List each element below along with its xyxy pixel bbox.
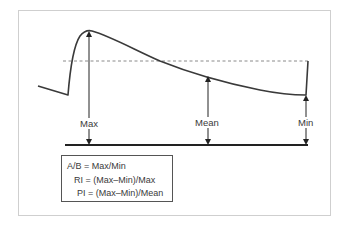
formula-box: A/B = Max/Min RI = (Max–Min)/Max PI = (M… (61, 155, 173, 202)
formula-ab-ratio: A/B = Max/Min (67, 160, 172, 174)
mean-label: Mean (194, 117, 220, 128)
formula-resistive-index: RI = (Max–Min)/Max (67, 174, 172, 188)
max-label: Max (79, 118, 99, 129)
min-label: Min (297, 117, 314, 128)
waveform-curve (38, 31, 308, 95)
formula-pulsatility-index: PI = (Max–Min)/Mean (67, 187, 172, 201)
